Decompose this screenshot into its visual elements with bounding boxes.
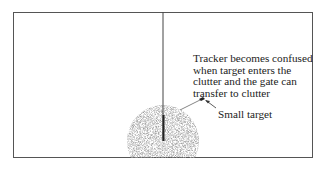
leader-line xyxy=(180,99,202,110)
caption-line: transfer to clutter xyxy=(193,88,313,100)
caption-text: Tracker becomes confused when target ent… xyxy=(193,53,313,99)
small-target-label: Small target xyxy=(218,109,272,121)
caption-line: Tracker becomes confused xyxy=(193,53,313,65)
caption-line: clutter and the gate can xyxy=(193,76,313,88)
